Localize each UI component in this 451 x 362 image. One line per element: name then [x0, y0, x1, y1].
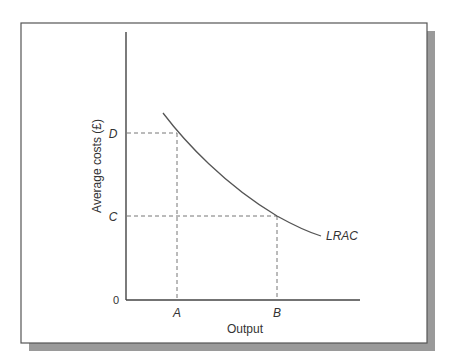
tick-label-d: D: [109, 127, 118, 141]
lrac-diagram: D C 0 A B Output Average costs (£) LRAC: [0, 0, 451, 362]
tick-label-b: B: [273, 306, 281, 320]
tick-label-c: C: [109, 210, 118, 224]
curve-label-lrac: LRAC: [326, 229, 358, 243]
x-axis-title: Output: [227, 322, 264, 336]
frame-border: [21, 23, 427, 343]
diagram-stage: D C 0 A B Output Average costs (£) LRAC: [0, 0, 451, 362]
origin-label: 0: [113, 294, 119, 306]
tick-label-a: A: [172, 306, 181, 320]
y-axis-title: Average costs (£): [90, 119, 104, 213]
